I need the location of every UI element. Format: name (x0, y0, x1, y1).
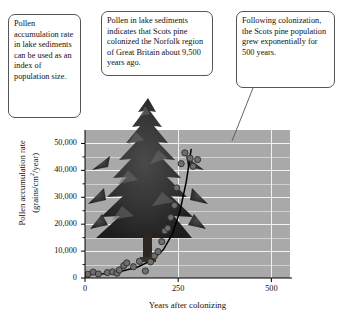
figure-container: Pollen accumulation rate in lake sedimen… (0, 0, 343, 331)
gridline-minor-y-15000 (85, 238, 290, 239)
x-tick-label-250: 250 (163, 284, 193, 293)
gridline-y-50000 (85, 143, 290, 144)
x-tick-label-0: 0 (70, 284, 100, 293)
callout-colonization-date-text: Pollen in lake sediments indicates that … (107, 16, 203, 67)
x-axis-title: Years after colonizing (85, 300, 290, 310)
gridline-y-20000 (85, 224, 290, 225)
gridline-minor-y-35000 (85, 184, 290, 185)
y-axis-units-exponent: 2 (29, 173, 36, 176)
callout-colonization-date: Pollen in lake sediments indicates that … (101, 11, 213, 76)
y-axis-title-line2: (grains/cm2/year) (28, 108, 41, 258)
gridline-y-40000 (85, 170, 290, 171)
plot-area (85, 130, 290, 278)
callout-pollen-index: Pollen accumulation rate in lake sedimen… (8, 14, 81, 118)
callout-exponential-growth-text: Following colonization, the Scots pine p… (242, 16, 326, 57)
y-axis-units-prefix: (grains/cm (30, 176, 40, 213)
gridline-y-30000 (85, 197, 290, 198)
gridline-x-250 (178, 130, 179, 278)
callout-exponential-growth: Following colonization, the Scots pine p… (236, 11, 335, 88)
x-axis-ticks (85, 278, 271, 282)
gridline-y-10000 (85, 251, 290, 252)
gridline-minor-y-45000 (85, 157, 290, 158)
gridline-minor-y-25000 (85, 211, 290, 212)
gridline-x-500 (271, 130, 272, 278)
y-axis-title: Pollen accumulation rate (grains/cm2/yea… (17, 108, 41, 258)
y-tick-label-0: 0 (31, 273, 77, 282)
gridline-minor-y-5000 (85, 265, 290, 266)
y-axis-title-line1: Pollen accumulation rate (17, 108, 27, 258)
x-tick-label-500: 500 (256, 284, 286, 293)
callout-pollen-index-text: Pollen accumulation rate in lake sedimen… (14, 19, 73, 81)
y-axis-units-suffix: /year) (30, 153, 40, 173)
